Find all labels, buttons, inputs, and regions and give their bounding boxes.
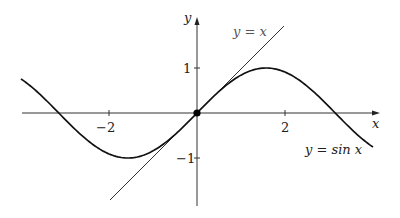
tick-label-1: 1 — [183, 62, 191, 75]
sine-label: y = sin x — [305, 143, 362, 156]
tick-label-2: 2 — [281, 121, 289, 134]
x-axis-arrow-icon — [372, 111, 380, 116]
y-axis-label: y — [184, 11, 191, 24]
x-axis-label: x — [372, 117, 379, 130]
tick-label-neg2: −2 — [96, 121, 115, 134]
y-axis-arrow-icon — [195, 17, 200, 25]
origin-point — [193, 109, 200, 116]
plot-canvas — [0, 0, 400, 218]
line-label: y = x — [233, 25, 267, 38]
tick-label-neg1: −1 — [176, 152, 195, 165]
